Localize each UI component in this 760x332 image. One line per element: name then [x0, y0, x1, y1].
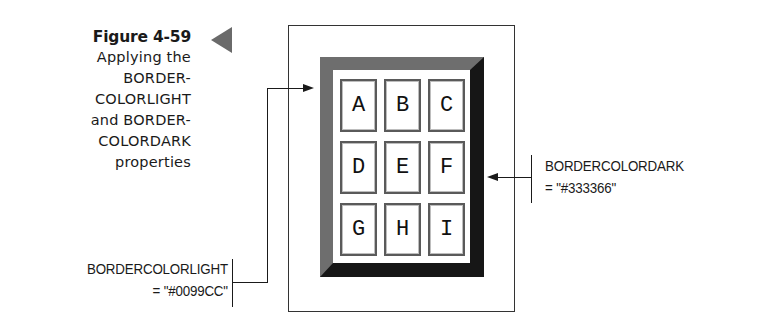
table-cell-e: E: [384, 141, 421, 194]
bordercolorlight-label: BORDERCOLORLIGHT = "#0099CC": [87, 258, 228, 302]
table-cell-h: H: [384, 203, 421, 256]
caption-line: COLORLIGHT: [0, 89, 191, 110]
bordercolordark-name: BORDERCOLORDARK: [545, 155, 684, 177]
figure-caption: Figure 4-59 Applying the BORDER- COLORLI…: [0, 28, 191, 173]
bordercolordark-value: = "#333366": [545, 177, 684, 199]
caption-line: and BORDER-: [0, 110, 191, 131]
arrow-right-icon: [303, 84, 314, 92]
arrow-left-icon: [487, 173, 498, 181]
caption-line: COLORDARK: [0, 131, 191, 152]
bracket-line-dark: [531, 155, 532, 203]
table-cell-f: F: [428, 141, 465, 194]
bordercolorlight-name: BORDERCOLORLIGHT: [87, 258, 228, 280]
caption-line: Applying the: [0, 47, 191, 68]
demo-table: A B C D E F G H I: [320, 57, 484, 277]
connector-line-dark: [496, 177, 532, 178]
connector-line-light: [267, 88, 268, 283]
bordercolordark-label: BORDERCOLORDARK = "#333366": [545, 155, 684, 199]
connector-line-light: [267, 88, 305, 89]
caption-line: properties: [0, 152, 191, 173]
table-cell-a: A: [340, 79, 377, 132]
caption-line: BORDER-: [0, 68, 191, 89]
table-cell-d: D: [340, 141, 377, 194]
bracket-line-light: [232, 259, 233, 307]
table-cell-i: I: [428, 203, 465, 256]
triangle-left-icon: [211, 27, 232, 53]
table-cell-c: C: [428, 79, 465, 132]
table-cell-g: G: [340, 203, 377, 256]
connector-line-light: [232, 282, 268, 283]
figure-number: Figure 4-59: [0, 28, 191, 47]
table-cell-b: B: [384, 79, 421, 132]
bordercolorlight-value: = "#0099CC": [87, 280, 228, 302]
